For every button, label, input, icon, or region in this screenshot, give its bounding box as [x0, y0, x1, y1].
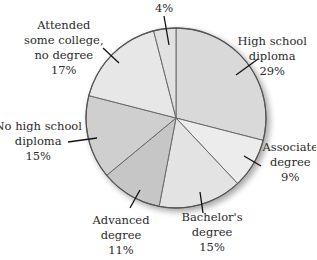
slice-label-line: degree [182, 225, 243, 240]
slice-label-line: no degree [24, 48, 104, 63]
slice-label: Associatedegree9% [263, 140, 317, 185]
slice-label-line: No high school [0, 119, 82, 134]
slice-label: Advanceddegree11% [93, 213, 150, 258]
slice-label-line: High school [238, 34, 307, 49]
slice-label-line: 9% [263, 170, 317, 185]
slice-label-line: degree [263, 155, 317, 170]
slice-label-line: 4% [155, 1, 173, 16]
slice-label-line: 29% [238, 64, 307, 79]
slice-label-line: 15% [0, 149, 82, 164]
slice-label-line: diploma [238, 49, 307, 64]
slice-label-line: Attended [24, 18, 104, 33]
slice-label-line: 15% [182, 240, 243, 255]
slice-label: Attendedsome college,no degree17% [24, 18, 104, 78]
slice-label-line: Associate [263, 140, 317, 155]
slice-label: High schooldiploma29% [238, 34, 307, 79]
slice-label-line: Advanced [93, 213, 150, 228]
slice-label-line: degree [93, 228, 150, 243]
slice-label: No high schooldiploma15% [0, 119, 82, 164]
slice-label-line: 11% [93, 243, 150, 258]
slice-label-line: some college, [24, 33, 104, 48]
slice-label-line: 17% [24, 63, 104, 78]
slice-label: Bachelor'sdegree15% [182, 210, 243, 255]
slice-label-line: Bachelor's [182, 210, 243, 225]
slice-label: 4% [155, 1, 173, 16]
slice-label-line: diploma [0, 134, 82, 149]
